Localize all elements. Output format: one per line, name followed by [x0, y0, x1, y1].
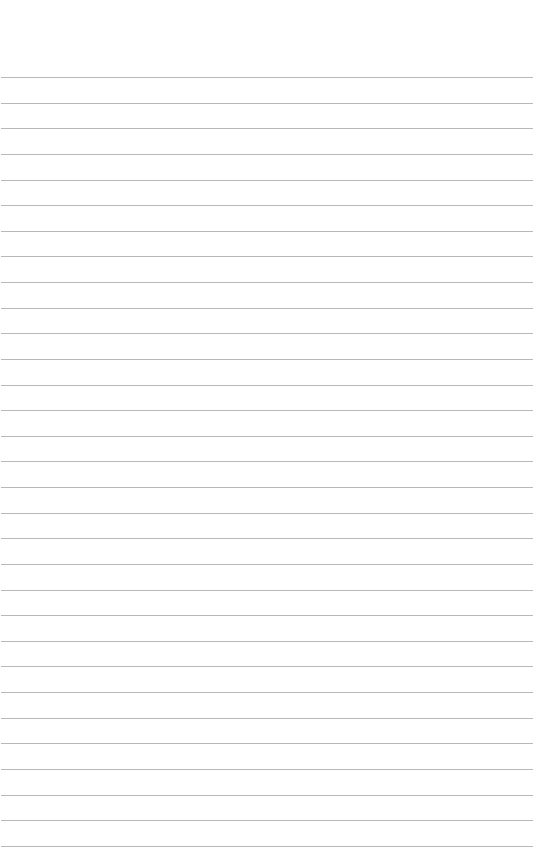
ruled-line	[1, 564, 533, 565]
ruled-line	[1, 692, 533, 693]
ruled-line	[1, 718, 533, 719]
ruled-line	[1, 641, 533, 642]
ruled-line	[1, 282, 533, 283]
ruled-line	[1, 103, 533, 104]
ruled-line	[1, 436, 533, 437]
ruled-line	[1, 128, 533, 129]
ruled-line	[1, 256, 533, 257]
ruled-line	[1, 615, 533, 616]
ruled-line	[1, 513, 533, 514]
ruled-line	[1, 154, 533, 155]
ruled-line	[1, 590, 533, 591]
ruled-line	[1, 743, 533, 744]
ruled-line	[1, 333, 533, 334]
ruled-line	[1, 385, 533, 386]
ruled-line	[1, 359, 533, 360]
ruled-line	[1, 410, 533, 411]
ruled-line	[1, 538, 533, 539]
ruled-line	[1, 77, 533, 78]
ruled-line	[1, 666, 533, 667]
ruled-line	[1, 820, 533, 821]
ruled-line	[1, 205, 533, 206]
ruled-line	[1, 795, 533, 796]
ruled-line	[1, 846, 533, 847]
ruled-line	[1, 769, 533, 770]
ruled-line	[1, 461, 533, 462]
ruled-line	[1, 231, 533, 232]
ruled-line	[1, 308, 533, 309]
ruled-line	[1, 180, 533, 181]
ruled-line	[1, 487, 533, 488]
